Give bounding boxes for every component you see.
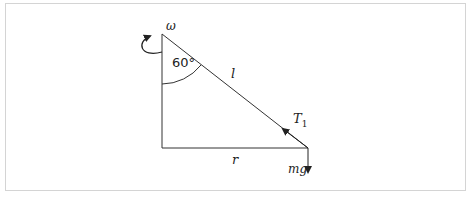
radius-label: r [232,152,239,167]
tension-arrow-icon [283,129,308,148]
weight-label: mg [288,162,307,176]
angle-label: 60° [172,55,195,70]
tension-label: T1 [293,111,307,129]
rotation-arrow-icon [142,36,162,53]
tension-subscript: 1 [302,119,308,129]
length-label: l [231,66,235,81]
omega-label: ω [166,19,176,33]
conical-pendulum-diagram: ω 60° l T1 r mg [0,0,473,199]
